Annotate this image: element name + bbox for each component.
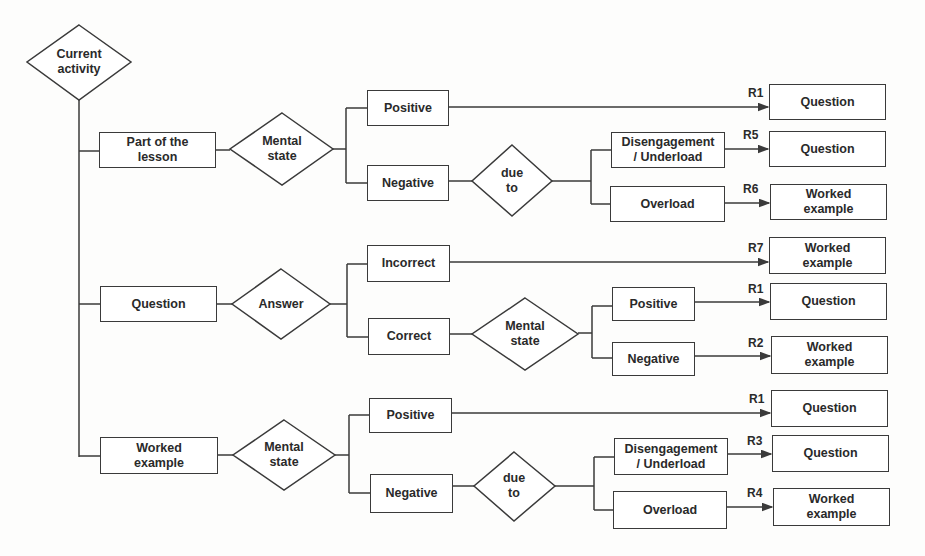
decision-answer: Answer: [244, 286, 318, 322]
rule-label-r6: R6: [743, 182, 758, 196]
rule-label-r5: R5: [743, 128, 758, 142]
rule-label-r7: R7: [748, 241, 763, 255]
activity-worked-example: Worked example: [100, 437, 218, 474]
state-positive-3: Positive: [369, 398, 452, 433]
decision-due-to-1: due to: [482, 163, 542, 199]
result-question-r1-a: Question: [769, 84, 886, 120]
result-worked-example-r6: Worked example: [770, 184, 887, 220]
activity-part-of-lesson: Part of the lesson: [99, 132, 216, 168]
cause-overload-2: Overload: [613, 491, 727, 529]
flowchart-canvas: Current activity Part of the lesson Ment…: [0, 0, 925, 556]
state-positive-1: Positive: [367, 90, 449, 126]
result-question-r3: Question: [772, 435, 889, 472]
state-negative-2: Negative: [612, 342, 695, 376]
activity-question: Question: [100, 286, 217, 322]
result-question-r1-b: Question: [770, 283, 887, 320]
rule-label-r1-a: R1: [748, 86, 763, 100]
cause-disengagement-underload-2: Disengagement / Underload: [614, 438, 728, 475]
cause-disengagement-underload-1: Disengagement / Underload: [611, 132, 725, 168]
state-negative-3: Negative: [370, 474, 453, 513]
result-worked-example-r2: Worked example: [771, 336, 888, 374]
answer-correct: Correct: [368, 318, 450, 355]
result-worked-example-r4: Worked example: [773, 488, 890, 526]
answer-incorrect: Incorrect: [367, 245, 450, 282]
rule-label-r1-c: R1: [749, 392, 764, 406]
root-decision-current-activity: Current activity: [40, 44, 118, 80]
decision-due-to-2: due to: [484, 468, 544, 504]
rule-label-r1-b: R1: [748, 282, 763, 296]
rule-label-r2: R2: [748, 336, 763, 350]
rule-label-r3: R3: [747, 434, 762, 448]
decision-mental-state-1: Mental state: [245, 131, 319, 167]
decision-mental-state-2: Mental state: [488, 316, 562, 352]
cause-overload-1: Overload: [610, 186, 725, 222]
result-question-r1-c: Question: [771, 390, 888, 427]
rule-label-r4: R4: [747, 486, 762, 500]
state-negative-1: Negative: [367, 165, 449, 201]
decision-mental-state-3: Mental state: [247, 437, 321, 473]
state-positive-2: Positive: [612, 287, 695, 321]
result-question-r5: Question: [769, 131, 886, 167]
result-worked-example-r7: Worked example: [769, 237, 886, 274]
